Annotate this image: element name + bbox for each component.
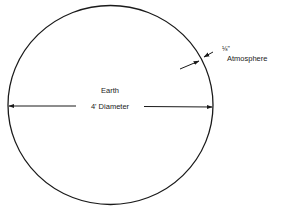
diameter-label: 4' Diameter <box>91 102 130 111</box>
atmosphere-thickness-label: ⅛" <box>222 45 230 52</box>
atmosphere-arrow-inner <box>180 61 199 69</box>
earth-diagram: Earth 4' Diameter ⅛" Atmosphere <box>0 0 281 217</box>
atmosphere-arrow-outer <box>204 52 213 57</box>
atmosphere-label: Atmosphere <box>227 54 267 63</box>
diameter-arrow-right <box>144 107 212 108</box>
earth-label: Earth <box>101 86 119 95</box>
